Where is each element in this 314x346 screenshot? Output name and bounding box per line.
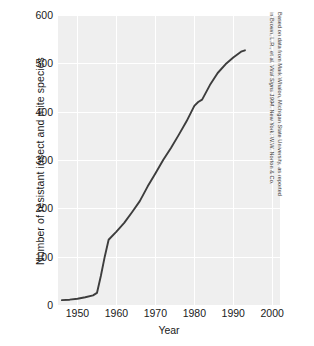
x-tick-label-1950: 1950 bbox=[57, 307, 97, 319]
credit-line-2-suffix: . New York: W.W. Norton & Co. bbox=[269, 106, 275, 184]
x-tick-label-2000: 2000 bbox=[252, 307, 292, 319]
data-line-resistant-species bbox=[62, 50, 245, 300]
y-tick-label-600: 600 bbox=[23, 9, 53, 21]
plot-area bbox=[58, 15, 280, 305]
credit-line-2-prefix: in Brown, L.R., et al. bbox=[269, 12, 275, 65]
x-tick-label-1970: 1970 bbox=[135, 307, 175, 319]
x-axis-title: Year bbox=[58, 324, 280, 336]
x-tick-label-1980: 1980 bbox=[174, 307, 214, 319]
x-axis-tick-labels: 195019601970198019902000 bbox=[0, 307, 314, 323]
data-series-svg bbox=[58, 15, 280, 305]
y-tick-label-200: 200 bbox=[23, 202, 53, 214]
resistant-species-line-chart: Number of resistant insect and mite spec… bbox=[0, 0, 314, 346]
credit-line-2: in Brown, L.R., et al. Vital Signs 1994.… bbox=[267, 12, 275, 292]
source-credit: Based on data from Mark Whalon, Michigan… bbox=[258, 12, 284, 292]
y-tick-label-300: 300 bbox=[23, 154, 53, 166]
y-axis-tick-labels: 0100200300400500600 bbox=[23, 0, 53, 346]
credit-line-1: Based on data from Mark Whalon, Michigan… bbox=[276, 12, 284, 292]
x-tick-label-1960: 1960 bbox=[96, 307, 136, 319]
credit-publication-title: Vital Signs 1994 bbox=[269, 65, 275, 106]
y-tick-label-100: 100 bbox=[23, 251, 53, 263]
x-tick-label-1990: 1990 bbox=[213, 307, 253, 319]
y-tick-label-400: 400 bbox=[23, 106, 53, 118]
y-tick-label-500: 500 bbox=[23, 57, 53, 69]
